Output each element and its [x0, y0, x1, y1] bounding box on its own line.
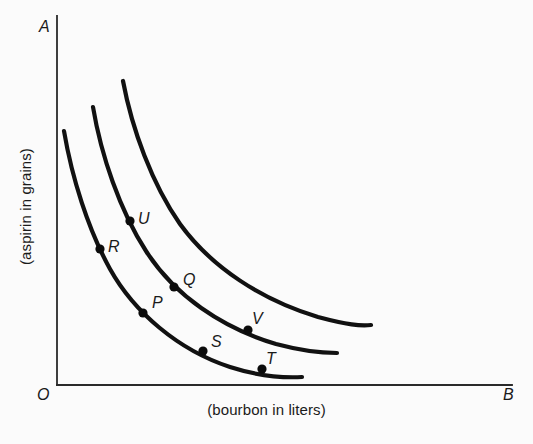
data-point-dot-p — [138, 308, 147, 317]
data-point-dot-q — [169, 282, 178, 291]
indifference-curve-figure: A B O U R Q P V S T (bourbon in liters) … — [0, 0, 533, 444]
y-axis-title: (aspirin in grains) — [17, 112, 34, 302]
point-label-q: Q — [183, 272, 195, 288]
curve-i3 — [123, 81, 371, 325]
data-point-dot-u — [125, 216, 134, 225]
point-label-v: V — [252, 311, 263, 327]
y-axis-title-wrapper: (aspirin in grains) — [0, 112, 50, 302]
curve-i2 — [93, 107, 337, 353]
plot-area — [0, 0, 533, 444]
y-axis-endpoint-label: A — [39, 19, 50, 35]
data-point-dot-r — [95, 244, 104, 253]
point-label-t: T — [266, 351, 276, 367]
point-label-s: S — [211, 334, 222, 350]
point-label-u: U — [138, 211, 150, 227]
point-label-r: R — [108, 239, 120, 255]
data-point-dot-s — [198, 346, 207, 355]
x-axis-title: (bourbon in liters) — [0, 401, 533, 418]
point-label-p: P — [152, 295, 163, 311]
